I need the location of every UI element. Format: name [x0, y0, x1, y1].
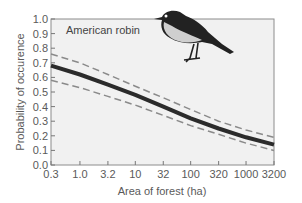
species-label: American robin: [66, 24, 140, 36]
x-tick-label: 0.3: [43, 168, 58, 180]
y-tick-label: 0.8: [33, 42, 48, 54]
y-tick-label: 0.1: [33, 144, 48, 156]
y-tick-label: 0.4: [33, 101, 48, 113]
y-axis-title: Probability of occurence: [14, 33, 26, 150]
y-tick-label: 0.7: [33, 57, 48, 69]
x-tick-label: 320: [209, 168, 227, 180]
plot-area: [51, 19, 274, 165]
y-tick-label: 0.9: [33, 28, 48, 40]
x-tick-label: 1000: [234, 168, 258, 180]
x-tick-label: 1.0: [72, 168, 87, 180]
x-tick-label: 3200: [262, 168, 286, 180]
chart: 0.00.10.20.30.40.50.60.70.80.91.0 0.31.0…: [0, 0, 302, 203]
y-tick-label: 0.5: [33, 86, 48, 98]
x-tick-label: 10: [129, 168, 141, 180]
x-tick-label: 32: [157, 168, 169, 180]
y-tick-label: 0.3: [33, 115, 48, 127]
x-axis-title: Area of forest (ha): [118, 185, 207, 197]
y-tick-label: 0.6: [33, 71, 48, 83]
x-tick-label: 100: [181, 168, 199, 180]
y-tick-label: 1.0: [33, 13, 48, 25]
x-tick-label: 3.2: [100, 168, 115, 180]
y-tick-label: 0.2: [33, 130, 48, 142]
